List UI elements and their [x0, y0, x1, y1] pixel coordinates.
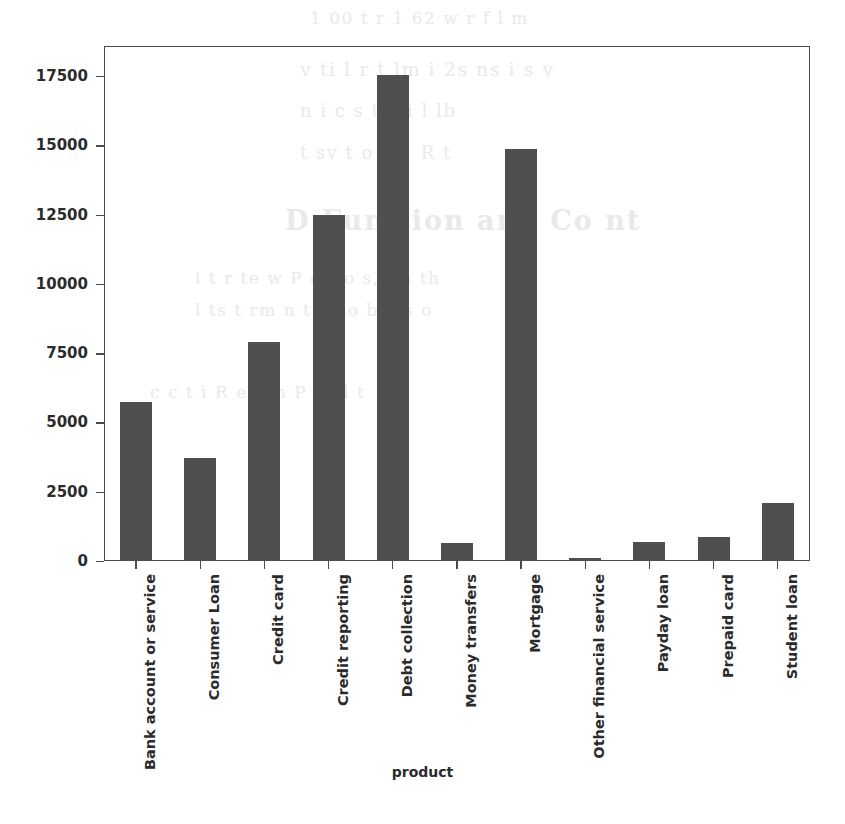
bar[interactable] [441, 543, 473, 561]
bar[interactable] [377, 75, 409, 561]
bar-slot [553, 46, 617, 561]
x-tick-mark [456, 561, 457, 569]
y-tick-label: 5000 [46, 413, 88, 431]
bar[interactable] [762, 503, 794, 561]
bar-chart-figure: 025005000750010000125001500017500 Bank a… [0, 0, 845, 824]
x-tick-label: Money transfers [463, 574, 479, 708]
y-tick-mark [96, 422, 104, 423]
x-tick-mark [520, 561, 521, 569]
x-tick-label: Credit card [270, 574, 286, 665]
bar[interactable] [698, 537, 730, 561]
y-tick-label: 2500 [46, 483, 88, 501]
bar-slot [361, 46, 425, 561]
bar[interactable] [184, 458, 216, 561]
y-tick-label: 0 [78, 552, 88, 570]
x-tick-mark [777, 561, 778, 569]
y-tick-label: 10000 [36, 275, 88, 293]
bar-slot [232, 46, 296, 561]
bar-slot [489, 46, 553, 561]
bar-slot [425, 46, 489, 561]
x-tick-label: Credit reporting [335, 574, 351, 706]
bars-container [104, 46, 810, 561]
x-tick-label: Payday loan [655, 574, 671, 672]
y-tick-label: 7500 [46, 344, 88, 362]
bar[interactable] [313, 215, 345, 561]
bar[interactable] [120, 402, 152, 561]
bar-slot [168, 46, 232, 561]
x-tick-mark [392, 561, 393, 569]
x-tick-label: Student loan [784, 574, 800, 679]
bar-slot [682, 46, 746, 561]
y-tick-mark [96, 284, 104, 285]
x-tick-label: Mortgage [527, 574, 543, 653]
y-tick-mark [96, 215, 104, 216]
x-axis-title: product [0, 764, 845, 780]
x-tick-label: Bank account or service [142, 574, 158, 770]
x-tick-label: Consumer Loan [206, 574, 222, 700]
x-tick-mark [649, 561, 650, 569]
y-tick-mark [96, 353, 104, 354]
bar[interactable] [248, 342, 280, 561]
y-tick-mark [96, 492, 104, 493]
x-tick-mark [135, 561, 136, 569]
x-tick-label: Debt collection [399, 574, 415, 697]
bar[interactable] [633, 542, 665, 561]
y-tick-mark [96, 145, 104, 146]
y-tick-label: 12500 [36, 206, 88, 224]
bar-slot [746, 46, 810, 561]
bar-slot [297, 46, 361, 561]
bar-slot [104, 46, 168, 561]
x-tick-mark [328, 561, 329, 569]
x-tick-mark [200, 561, 201, 569]
x-tick-label: Prepaid card [720, 574, 736, 678]
x-tick-mark [264, 561, 265, 569]
y-tick-label: 17500 [36, 67, 88, 85]
bar[interactable] [505, 149, 537, 561]
y-tick-label: 15000 [36, 136, 88, 154]
x-tick-label: Other financial service [591, 574, 607, 759]
x-tick-mark [713, 561, 714, 569]
bar-slot [617, 46, 681, 561]
y-tick-mark [96, 561, 104, 562]
x-tick-mark [585, 561, 586, 569]
y-tick-mark [96, 76, 104, 77]
